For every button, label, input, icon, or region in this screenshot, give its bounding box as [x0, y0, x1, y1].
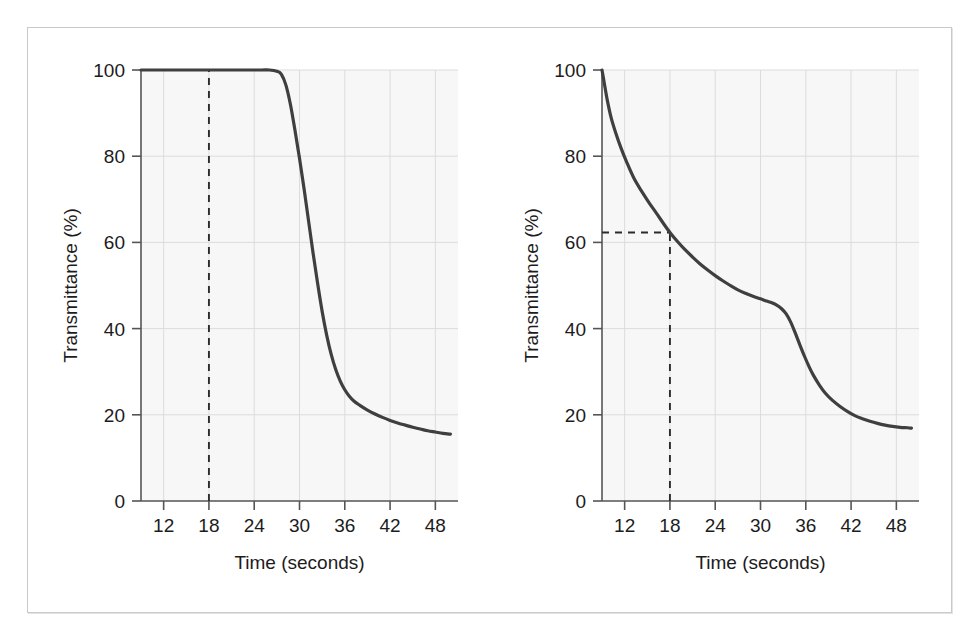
- y-axis-title-right: Transmittance (%): [521, 208, 542, 363]
- y-tick-label: 100: [554, 60, 586, 81]
- y-tick-label: 40: [104, 319, 125, 340]
- chart-svg-right: 12182430364248 020406080100 Time (second…: [489, 28, 951, 612]
- y-tick-label: 0: [114, 491, 125, 512]
- x-tick-label: 12: [153, 515, 174, 536]
- x-tick-label: 12: [614, 515, 635, 536]
- y-tick-labels-right: 020406080100: [554, 60, 586, 512]
- figure-root: 12182430364248 020406080100 Time (second…: [0, 0, 978, 640]
- x-tick-label: 42: [380, 515, 401, 536]
- chart-panel-right: 12182430364248 020406080100 Time (second…: [489, 28, 951, 612]
- y-tick-label: 60: [104, 232, 125, 253]
- y-tick-label: 20: [104, 405, 125, 426]
- x-tick-label: 24: [705, 515, 727, 536]
- figure-frame: 12182430364248 020406080100 Time (second…: [27, 27, 952, 613]
- chart-svg-left: 12182430364248 020406080100 Time (second…: [28, 28, 490, 612]
- y-tick-label: 0: [575, 491, 586, 512]
- y-tick-label: 20: [565, 405, 586, 426]
- y-tick-label: 80: [104, 146, 125, 167]
- y-tick-labels-left: 020406080100: [93, 60, 125, 512]
- x-tick-labels-left: 12182430364248: [153, 515, 446, 536]
- x-tick-label: 36: [334, 515, 355, 536]
- y-tick-label: 100: [93, 60, 125, 81]
- y-axis-title-left: Transmittance (%): [60, 208, 81, 363]
- x-tick-label: 48: [886, 515, 907, 536]
- x-axis-title-left: Time (seconds): [234, 552, 364, 573]
- x-axis-title-right: Time (seconds): [695, 552, 825, 573]
- x-tick-label: 24: [244, 515, 266, 536]
- x-tick-label: 48: [425, 515, 446, 536]
- x-tick-label: 42: [841, 515, 862, 536]
- y-tick-label: 80: [565, 146, 586, 167]
- x-tick-label: 30: [289, 515, 310, 536]
- y-tick-label: 60: [565, 232, 586, 253]
- x-tick-label: 36: [795, 515, 816, 536]
- x-tick-labels-right: 12182430364248: [614, 515, 907, 536]
- x-tick-label: 18: [198, 515, 219, 536]
- chart-panel-left: 12182430364248 020406080100 Time (second…: [28, 28, 490, 612]
- x-tick-label: 30: [750, 515, 771, 536]
- y-tick-label: 40: [565, 319, 586, 340]
- x-tick-label: 18: [659, 515, 680, 536]
